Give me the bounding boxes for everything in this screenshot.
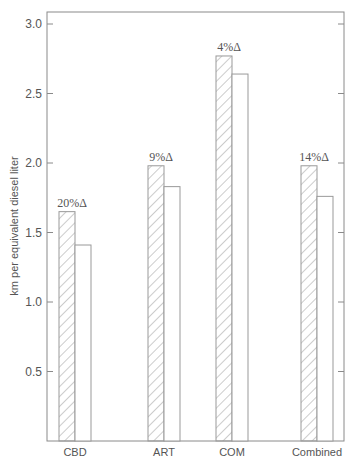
annotations-group: 20%Δ9%Δ4%Δ14%Δ <box>57 40 329 210</box>
x-tick-label: CBD <box>63 446 86 458</box>
percent-change-annotation: 14%Δ <box>299 150 329 164</box>
percent-change-annotation: 9%Δ <box>149 150 173 164</box>
bar-hatched <box>148 166 164 441</box>
bar-hatched <box>216 56 232 441</box>
x-tick-label: ART <box>153 446 175 458</box>
bar-hatched <box>59 212 75 441</box>
bars-group <box>59 56 333 441</box>
y-tick-label: 3.0 <box>25 17 42 31</box>
x-tick-label: Combined <box>292 446 342 458</box>
x-tick-label: COM <box>219 446 245 458</box>
y-tick-label: 2.0 <box>25 156 42 170</box>
bar-plain <box>317 196 333 441</box>
bar-chart: 0.51.01.52.02.53.0 CBDARTCOMCombined 20%… <box>0 0 352 466</box>
y-tick-label: 0.5 <box>25 365 42 379</box>
y-tick-label: 2.5 <box>25 87 42 101</box>
y-tick-label: 1.0 <box>25 295 42 309</box>
bar-plain <box>232 74 248 441</box>
percent-change-annotation: 4%Δ <box>217 40 241 54</box>
y-axis-label: km per equivalent diesel liter <box>8 156 20 295</box>
plot-frame <box>47 12 344 441</box>
y-tick-label: 1.5 <box>25 226 42 240</box>
x-axis-labels: CBDARTCOMCombined <box>63 446 342 458</box>
percent-change-annotation: 20%Δ <box>57 196 87 210</box>
bar-plain <box>75 245 91 441</box>
bar-hatched <box>301 166 317 441</box>
bar-plain <box>164 187 180 441</box>
